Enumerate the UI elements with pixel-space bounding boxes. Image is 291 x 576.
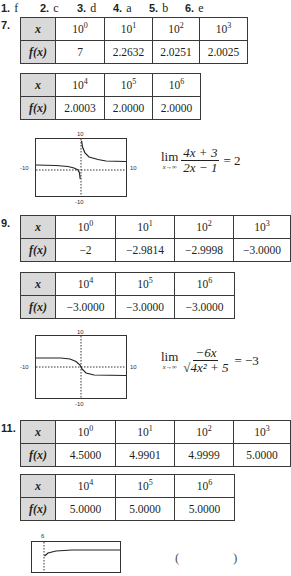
answer-3: 3.d <box>77 1 96 16</box>
table-row-x: x 104 105 106 <box>21 475 235 498</box>
fx-cell: 5.0000 <box>175 498 235 521</box>
fx-header: f(x) <box>21 296 56 319</box>
table-row-x: x 104 105 106 <box>21 74 201 97</box>
x-header: x <box>21 18 56 41</box>
graph-11-plot <box>32 542 120 572</box>
graph-7-ymax-label: 10 <box>77 131 84 137</box>
graph-9 <box>35 335 127 399</box>
graph-7-xmax-label: 10 <box>130 165 137 171</box>
fx-cell: 4.9999 <box>175 444 234 467</box>
fx-header: f(x) <box>21 41 56 64</box>
graph-11-ymax-label: 6 <box>41 533 44 539</box>
answer-6: 6.e <box>185 1 204 16</box>
table-row-x: x 104 105 106 <box>21 273 235 296</box>
x-cell: 104 <box>56 74 105 97</box>
x-cell: 101 <box>116 216 175 239</box>
limit-9: limx→∞ −6x√4x² + 5 = −3 <box>161 346 259 375</box>
fx-cell: 4.9901 <box>116 444 175 467</box>
limit-7-fraction: 4x + 32x − 1 <box>181 146 219 175</box>
x-cell: 105 <box>116 273 175 296</box>
table-row-fx: f(x) −3.0000 −3.0000 −3.0000 <box>21 296 235 319</box>
limit-9-fraction: −6x√4x² + 5 <box>181 346 230 375</box>
problem-7-table-2: x 104 105 106 f(x) 2.0003 2.0000 2.0000 <box>20 73 201 120</box>
fx-cell: 5.0000 <box>56 498 116 521</box>
x-cell: 103 <box>200 18 248 41</box>
answer-5: 5.b <box>149 1 168 16</box>
fx-header: f(x) <box>21 239 56 262</box>
x-cell: 104 <box>56 475 116 498</box>
table-row-x: x 100 101 102 103 <box>21 216 291 239</box>
answer-1: 1.f <box>1 1 18 16</box>
x-cell: 100 <box>56 18 105 41</box>
x-cell: 103 <box>234 421 291 444</box>
x-header: x <box>21 216 56 239</box>
fx-cell: −3.0000 <box>116 296 175 319</box>
graph-9-xmax-label: 10 <box>130 364 137 370</box>
x-header: x <box>21 74 56 97</box>
problem-11-table-1: x 100 101 102 103 f(x) 4.5000 4.9901 4.9… <box>20 420 291 467</box>
fx-cell: −3.0000 <box>56 296 116 319</box>
x-cell: 101 <box>105 18 153 41</box>
x-cell: 106 <box>175 273 235 296</box>
fx-cell: −2.9814 <box>116 239 175 262</box>
fx-header: f(x) <box>21 498 56 521</box>
graph-7-xmin-label: -10 <box>20 165 29 171</box>
x-cell: 101 <box>116 421 175 444</box>
fx-cell: 2.0003 <box>56 97 105 120</box>
fx-cell: 7 <box>56 41 105 64</box>
fx-cell: 2.0000 <box>153 97 201 120</box>
fx-header: f(x) <box>21 97 56 120</box>
x-header: x <box>21 421 56 444</box>
problem-number-9: 9. <box>1 217 10 229</box>
table-row-fx: f(x) 2.0003 2.0000 2.0000 <box>21 97 201 120</box>
fx-cell: −2 <box>56 239 116 262</box>
x-header: x <box>21 273 56 296</box>
fx-header: f(x) <box>21 444 56 467</box>
problem-number-11: 11. <box>1 422 16 434</box>
problem-9-table-2: x 104 105 106 f(x) −3.0000 −3.0000 −3.00… <box>20 272 235 319</box>
fx-cell: −2.9998 <box>175 239 234 262</box>
x-cell: 102 <box>175 421 234 444</box>
x-cell: 105 <box>105 74 153 97</box>
problem-number-7: 7. <box>1 19 10 31</box>
x-cell: 102 <box>153 18 200 41</box>
problem-7-table-1: x 100 101 102 103 f(x) 7 2.2632 2.0251 2… <box>20 17 248 64</box>
graph-7 <box>35 138 127 197</box>
x-cell: 104 <box>56 273 116 296</box>
fx-cell: 2.0251 <box>153 41 200 64</box>
problem-11-table-2: x 104 105 106 f(x) 5.0000 5.0000 5.0000 <box>20 474 235 521</box>
graph-9-ymin-label: -10 <box>75 401 84 407</box>
table-row-fx: f(x) −2 −2.9814 −2.9998 −3.0000 <box>21 239 291 262</box>
table-row-fx: f(x) 7 2.2632 2.0251 2.0025 <box>21 41 248 64</box>
graph-9-xmin-label: -10 <box>20 364 29 370</box>
fx-cell: 5.0000 <box>116 498 175 521</box>
fx-cell: 5.0000 <box>234 444 291 467</box>
graph-11 <box>31 541 121 573</box>
fx-cell: −3.0000 <box>175 296 235 319</box>
fx-cell: 2.0000 <box>105 97 153 120</box>
x-cell: 102 <box>175 216 234 239</box>
answer-2: 2.c <box>40 1 59 16</box>
table-row-fx: f(x) 5.0000 5.0000 5.0000 <box>21 498 235 521</box>
table-row-x: x 100 101 102 103 <box>21 18 248 41</box>
x-cell: 103 <box>234 216 291 239</box>
x-cell: 100 <box>56 216 116 239</box>
answer-4: 4.a <box>113 1 132 16</box>
limit-7: limx→∞ 4x + 32x − 1 = 2 <box>161 146 240 175</box>
table-row-x: x 100 101 102 103 <box>21 421 291 444</box>
graph-7-plot <box>36 139 126 196</box>
fx-cell: −3.0000 <box>234 239 291 262</box>
fx-cell: 4.5000 <box>56 444 116 467</box>
x-cell: 100 <box>56 421 116 444</box>
graph-9-plot <box>36 336 126 398</box>
graph-7-ymin-label: -10 <box>75 199 84 205</box>
problem-9-table-1: x 100 101 102 103 f(x) −2 −2.9814 −2.999… <box>20 215 291 262</box>
table-row-fx: f(x) 4.5000 4.9901 4.9999 5.0000 <box>21 444 291 467</box>
x-header: x <box>21 475 56 498</box>
fx-cell: 2.0025 <box>200 41 248 64</box>
x-cell: 106 <box>175 475 235 498</box>
fx-cell: 2.2632 <box>105 41 153 64</box>
x-cell: 106 <box>153 74 201 97</box>
x-cell: 105 <box>116 475 175 498</box>
